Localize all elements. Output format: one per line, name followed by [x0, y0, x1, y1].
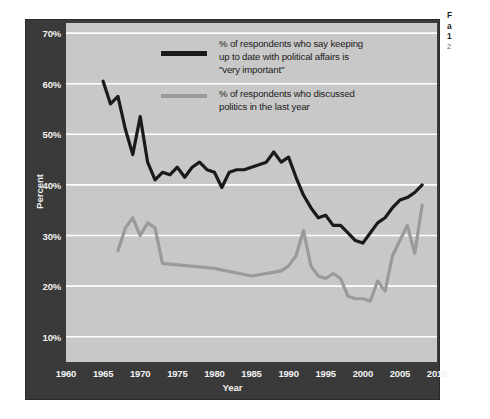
x-tick-label: 2005: [390, 368, 410, 379]
y-tick-label: 30%: [23, 230, 61, 241]
y-tick-label: 50%: [23, 129, 61, 140]
x-tick-label: 1980: [204, 368, 224, 379]
y-axis-title: Percent: [34, 161, 45, 221]
y-tick-label: 70%: [23, 28, 61, 39]
x-tick-label: 1970: [130, 368, 150, 379]
legend-label-line: % of respondents who say keeping: [219, 37, 363, 50]
x-axis-title: Year: [26, 382, 439, 393]
figure-container: Percent 10%20%30%40%50%60%70% % of respo…: [0, 0, 490, 419]
legend-entry: % of respondents who discussedpolitics i…: [161, 87, 423, 113]
chart-legend: % of respondents who say keepingup to da…: [161, 37, 423, 123]
legend-label-line: % of respondents who discussed: [219, 87, 355, 100]
side-caption: Fa12: [447, 10, 490, 52]
side-caption-line: 1: [447, 31, 490, 42]
legend-label: % of respondents who say keepingup to da…: [219, 37, 363, 77]
x-tick-label: 2000: [353, 368, 373, 379]
legend-label: % of respondents who discussedpolitics i…: [219, 87, 355, 113]
x-tick-label: 2010: [427, 368, 447, 379]
y-tick-label: 60%: [23, 78, 61, 89]
legend-swatch-dark-line: [161, 51, 207, 56]
y-tick-label: 40%: [23, 179, 61, 190]
x-tick-label: 1960: [56, 368, 76, 379]
legend-label-line: up to date with political affairs is: [219, 50, 363, 63]
x-tick-label: 1985: [241, 368, 261, 379]
side-caption-line: F: [447, 10, 490, 21]
series-line-1: [118, 205, 422, 301]
side-caption-line: 2: [447, 42, 490, 53]
legend-swatch-gray-line: [161, 94, 207, 98]
x-tick-label: 1965: [93, 368, 113, 379]
x-tick-label: 1990: [278, 368, 298, 379]
plot-area: % of respondents who say keepingup to da…: [66, 23, 437, 362]
legend-label-line: "very important": [219, 63, 363, 76]
side-caption-line: a: [447, 21, 490, 32]
y-tick-label: 20%: [23, 281, 61, 292]
x-tick-label: 1995: [316, 368, 336, 379]
x-tick-label: 1975: [167, 368, 187, 379]
legend-entry: % of respondents who say keepingup to da…: [161, 37, 423, 77]
y-tick-label: 10%: [23, 331, 61, 342]
legend-label-line: politics in the last year: [219, 100, 355, 113]
chart-frame: Percent 10%20%30%40%50%60%70% % of respo…: [25, 19, 440, 400]
